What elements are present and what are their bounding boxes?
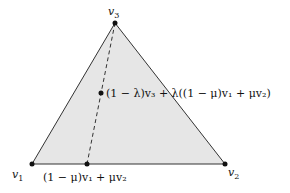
- label-v1: v1: [12, 168, 23, 183]
- label-v2: v2: [228, 166, 239, 181]
- label-v3: v3: [108, 5, 119, 20]
- triangle-diagram: v3 v1 v2 (1 − μ)v₁ + μv₂ (1 − λ)v₃ + λ((…: [0, 0, 290, 193]
- vertex-v2: [223, 162, 228, 167]
- vertex-v1: [30, 162, 35, 167]
- interior-point: [99, 91, 104, 96]
- edge-point: [85, 162, 90, 167]
- label-interior-point: (1 − λ)v₃ + λ((1 − μ)v₁ + μv₂): [106, 87, 271, 100]
- label-edge-point: (1 − μ)v₁ + μv₂: [43, 171, 127, 184]
- vertex-v3: [113, 21, 118, 26]
